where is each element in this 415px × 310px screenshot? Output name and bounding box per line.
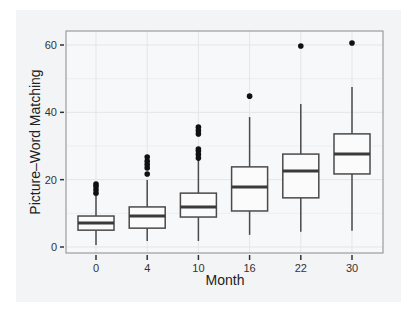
outlier-point [247, 93, 253, 99]
x-tick-label: 30 [346, 262, 358, 274]
outlier-point [196, 146, 202, 152]
y-tick-label: 0 [51, 241, 57, 253]
x-tick-label: 10 [192, 262, 204, 274]
outlier-point [144, 171, 150, 177]
y-tick-label: 20 [45, 174, 57, 186]
y-axis-title: Picture–Word Matching [27, 69, 43, 214]
outlier-point [196, 124, 202, 130]
iqr-box [283, 154, 319, 198]
outlier-point [298, 43, 304, 49]
x-tick-label: 16 [243, 262, 255, 274]
y-axis: 0204060 [45, 39, 64, 253]
x-tick-label: 4 [144, 262, 150, 274]
outlier-point [93, 181, 99, 187]
x-axis-title: Month [206, 272, 245, 288]
iqr-box [129, 207, 165, 228]
iqr-box [180, 193, 216, 217]
x-tick-label: 22 [295, 262, 307, 274]
iqr-box [232, 167, 268, 211]
outlier-point [349, 40, 355, 46]
outlier-point [144, 154, 150, 160]
x-tick-label: 0 [93, 262, 99, 274]
y-tick-label: 60 [45, 39, 57, 51]
y-tick-label: 40 [45, 106, 57, 118]
boxplot-chart: 0204060 0410162230 Month Picture–Word Ma… [0, 0, 415, 310]
